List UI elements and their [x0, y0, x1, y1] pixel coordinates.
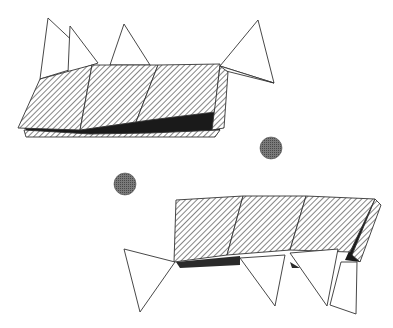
tetrahedron [124, 249, 175, 312]
tetrahedron [290, 249, 338, 306]
lower-layer [124, 196, 381, 314]
upper-layer [18, 18, 274, 137]
cation-sphere [260, 137, 282, 159]
tetrahedron [110, 24, 150, 65]
tetrahedron [240, 255, 285, 306]
octahedron [18, 65, 92, 130]
cation-sphere [114, 173, 136, 195]
structure-figure [0, 0, 393, 328]
crystal-structure-diagram [0, 0, 393, 328]
